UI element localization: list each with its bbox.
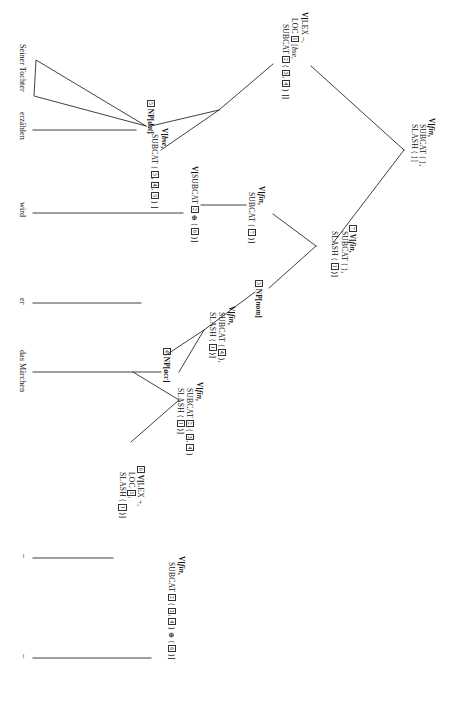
edge-vbse-right [151, 110, 219, 126]
edge-vbse-left [161, 110, 219, 150]
node-root-line2: SUBCAT ⟨ ⟩, [418, 118, 427, 166]
node-v-bse-line1: V[bse, [159, 128, 168, 209]
trace-1: – [20, 554, 29, 558]
leaf-er: er [18, 298, 27, 304]
node-np-nom: 3 NP[nom] [254, 280, 263, 318]
node-root-line1: V[fin, [426, 118, 435, 166]
node-v-fin-sub2-slash1-line3: SLASH ⟨ 1 ⟩] [176, 382, 185, 456]
edge-vfin4-right [179, 330, 204, 372]
node-v-fin-sub2-slash1-line1: V[fin, [194, 382, 203, 456]
leaf-seiner-tochter: Seiner Tochter [18, 44, 27, 92]
edge-root-vlexminus [311, 66, 404, 150]
node-vlex-plus-line1: 6 V[LEX +, [136, 466, 145, 518]
node-vlex-minus-line2: LOC 1 [bse, [290, 12, 299, 99]
node-np-acc-label: 4 NP[acc] [162, 348, 171, 383]
node-v-fin-slash1-line2: SUBCAT ⟨ ⟩, [339, 225, 348, 277]
node-v-bse: V[bse, SUBCAT ⟨ 3, 4, 5 ⟩ ] [150, 128, 168, 209]
trace-2: – [20, 654, 29, 658]
node-np-nom-label: 3 NP[nom] [254, 280, 263, 318]
node-v-fin-sub2-slash1-line2: SUBCAT 2 ⟨ 3, 4 ⟩ [185, 382, 194, 456]
triangle-np-dat [34, 60, 146, 126]
node-v-fin-slash1: 7 V[fin, SUBCAT ⟨ ⟩, SLASH ⟨ 1 ⟩] [330, 225, 357, 277]
edge-vfinslash1-left [273, 214, 316, 246]
node-v-fin-sub4-slash1-line1: V[fin, [226, 306, 235, 363]
leaf-erzaehlen: erzählen [18, 112, 27, 140]
node-v-fin-sub4-slash1: V[fin, SUBCAT ⟨ 4 ⟩, SLASH ⟨ 1 ⟩] [208, 306, 235, 363]
node-v-fin-top-line1: V[fin, [176, 556, 185, 660]
edge-vlexminus-down [219, 64, 273, 110]
node-vlex-plus-line3: SLASH ⟨ 1 ⟩] [117, 466, 126, 518]
node-np-acc: 4 NP[acc] [162, 348, 171, 383]
leaf-das-maerchen: das Märchen [18, 350, 27, 392]
node-v-fin-slash1-line1: 7 V[fin, [348, 225, 357, 277]
node-vlex-plus-line2: LOC 1, [127, 466, 136, 518]
node-v-fin-subcat7-line1: V[fin, [256, 186, 265, 243]
node-v-subcat-sum: V[SUBCAT 2 ⊕ ⟨ 6 ⟩] [190, 166, 199, 242]
node-v-bse-line2: SUBCAT ⟨ 3, 4, 5 ⟩ ] [150, 128, 159, 209]
node-root-line3: SLASH ⟨ ⟩] [409, 118, 418, 166]
node-v-fin-top-line2: SUBCAT 2 ⟨ 3, 4 ⟩ ⊕ ⟨ 6 ⟩] [167, 556, 176, 660]
node-v-fin-top: V[fin, SUBCAT 2 ⟨ 3, 4 ⟩ ⊕ ⟨ 6 ⟩] [167, 556, 185, 660]
node-vlex-minus: V[LEX –, LOC 1 [bse, SUBCAT 2 ⟨ 3, 4 ⟩ ]… [281, 12, 308, 99]
node-vlex-plus: 6 V[LEX +, LOC 1, SLASH ⟨ 1 ⟩] [117, 466, 145, 518]
node-root: V[fin, SUBCAT ⟨ ⟩, SLASH ⟨ ⟩] [409, 118, 435, 166]
node-v-fin-sub4-slash1-line3: SLASH ⟨ 1 ⟩] [208, 306, 217, 363]
node-v-fin-sub4-slash1-line2: SUBCAT ⟨ 4 ⟩, [217, 306, 226, 363]
edge-vfin2-left [133, 372, 179, 400]
node-v-fin-sub2-slash1: V[fin, SUBCAT 2 ⟨ 3, 4 ⟩ SLASH ⟨ 1 ⟩] [176, 382, 203, 456]
edge-vfin4-acc [166, 330, 204, 355]
node-vlex-minus-line1: V[LEX –, [299, 12, 308, 99]
syntax-tree-figure: V[fin, SUBCAT ⟨ ⟩, SLASH ⟨ ⟩] V[LEX –, L… [0, 0, 451, 725]
node-v-fin-subcat7: V[fin, SUBCAT ⟨ 7 ⟩] [247, 186, 265, 243]
node-vlex-minus-line3: SUBCAT 2 ⟨ 3, 4 ⟩ ]] [281, 12, 290, 99]
node-v-fin-subcat7-line2: SUBCAT ⟨ 7 ⟩] [247, 186, 256, 243]
node-v-subcat-sum-line1: V[SUBCAT 2 ⊕ ⟨ 6 ⟩] [190, 166, 199, 242]
edge-vfinslash1-right [269, 246, 316, 288]
leaf-wird: wird [18, 202, 27, 217]
node-v-fin-slash1-line3: SLASH ⟨ 1 ⟩] [330, 225, 339, 277]
edge-vfin2-right [131, 400, 179, 442]
